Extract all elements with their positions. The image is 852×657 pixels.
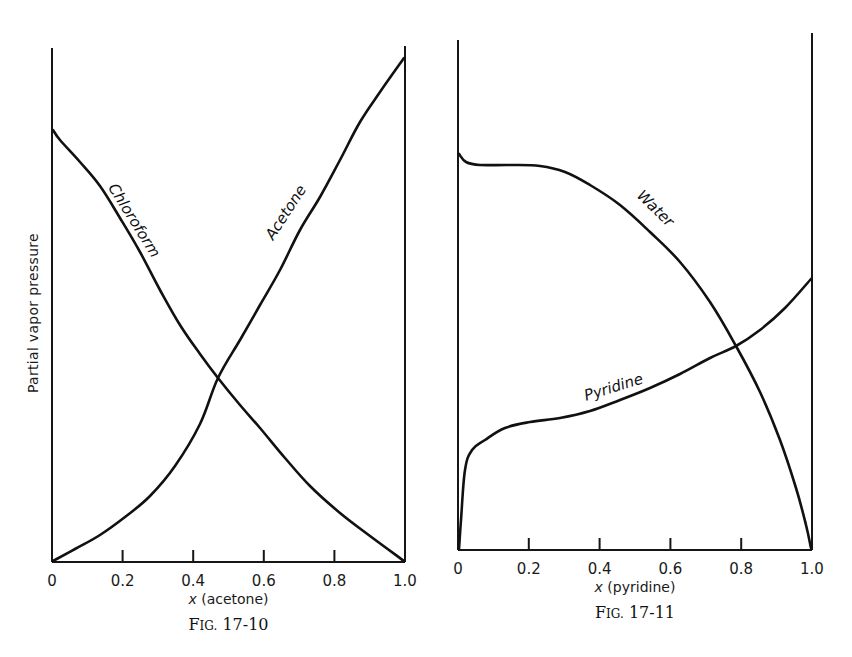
figure-caption: FIG. 17-10 (188, 615, 268, 634)
curve-chloroform (53, 130, 404, 561)
x-tick-label: 0.4 (588, 560, 612, 578)
x-tick-label: 1.0 (800, 560, 824, 578)
curve-acetone (53, 58, 404, 561)
figure-canvas: 00.20.40.60.81.0x (acetone)FIG. 17-10Par… (0, 0, 852, 657)
x-tick-label: 0.4 (181, 572, 205, 590)
series-label-pyridine: Pyridine (582, 370, 645, 405)
curve-water (459, 154, 811, 548)
x-tick-label: 0.8 (322, 572, 346, 590)
x-tick-label: 0 (47, 572, 57, 590)
x-tick-label: 0.8 (729, 560, 753, 578)
chart-fig-17-11: 00.20.40.60.81.0x (pyridine)FIG. 17-11Wa… (453, 33, 824, 622)
x-tick-label: 0.2 (111, 572, 135, 590)
series-label-acetone: Acetone (261, 182, 310, 244)
x-tick-label: 0.2 (517, 560, 541, 578)
figure-caption: FIG. 17-11 (595, 603, 675, 622)
chart-fig-17-10: 00.20.40.60.81.0x (acetone)FIG. 17-10Par… (25, 46, 417, 634)
curve-pyridine (459, 279, 811, 549)
x-tick-label: 1.0 (393, 572, 417, 590)
x-tick-label: 0.6 (658, 560, 682, 578)
x-tick-label: 0 (453, 560, 463, 578)
series-label-chloroform: Chloroform (104, 180, 164, 261)
x-axis-label: x (acetone) (187, 591, 268, 607)
x-tick-label: 0.6 (252, 572, 276, 590)
x-axis-label: x (pyridine) (594, 579, 676, 595)
y-axis-label: Partial vapor pressure (25, 233, 41, 393)
